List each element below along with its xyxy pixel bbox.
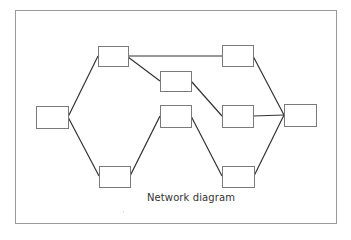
node-I: [285, 105, 317, 127]
node-B: [99, 47, 129, 67]
edge-A-E: [68, 117, 99, 176]
node-A: [37, 107, 69, 129]
node-D: [161, 106, 192, 128]
diagram-caption: Network diagram: [147, 192, 235, 203]
edge-A-B: [68, 56, 98, 117]
node-F: [223, 46, 254, 67]
edge-G-I: [253, 115, 284, 116]
edge-E-D: [130, 116, 160, 176]
node-C: [161, 72, 192, 92]
node-E: [100, 167, 131, 188]
node-G: [223, 106, 254, 128]
edge-C-G: [191, 81, 222, 116]
edge-H-I: [254, 115, 284, 176]
stray-dot: [123, 211, 124, 212]
edge-B-C: [128, 57, 160, 81]
edge-F-I: [253, 56, 284, 115]
node-H: [223, 167, 255, 188]
nodes-group: [37, 46, 317, 188]
edge-D-H: [191, 116, 222, 176]
